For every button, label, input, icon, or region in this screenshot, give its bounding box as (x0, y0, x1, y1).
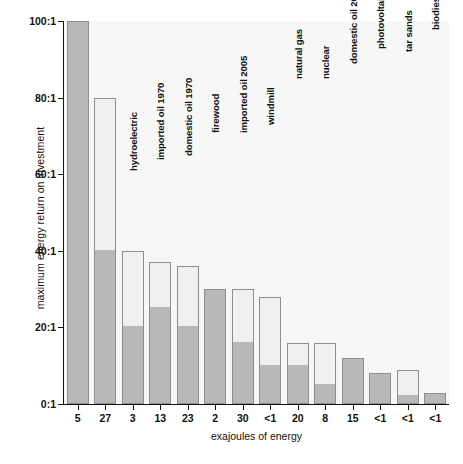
x-axis-tick-label: 5 (75, 412, 81, 424)
x-axis-tick-label: <1 (402, 412, 414, 424)
x-axis-tick-mark (243, 405, 244, 410)
bar[interactable] (122, 251, 144, 404)
bar-label: windmill (265, 88, 276, 126)
bar[interactable] (287, 343, 309, 404)
x-axis-tick-mark (215, 405, 216, 410)
bar-lower-segment (233, 342, 253, 403)
x-axis-tick-label: 13 (154, 412, 166, 424)
bar-label: photovoltaic (375, 0, 386, 49)
x-axis-tick-label: <1 (429, 412, 441, 424)
bar-slot: firewood (204, 21, 226, 404)
bar[interactable] (397, 370, 419, 404)
bar-lower-segment (95, 250, 115, 403)
bar-slot: windmill (259, 21, 281, 404)
x-axis-tick-label: 23 (182, 412, 194, 424)
bar-label: domestic oil 2000 (347, 0, 358, 64)
y-axis-tick-label: 60:1 (14, 168, 56, 180)
bar-slot: photovoltaic (369, 21, 391, 404)
y-axis-tick-label: 40:1 (14, 245, 56, 257)
y-axis-tick-label: 100:1 (14, 15, 56, 27)
x-axis-tick-label: 15 (347, 412, 359, 424)
x-axis-tick-label: 3 (130, 412, 136, 424)
bar[interactable] (232, 289, 254, 404)
bar-label: tar sands (402, 11, 413, 53)
x-axis-tick-mark (380, 405, 381, 410)
bar-lower-segment (178, 326, 198, 403)
plot-area: domestic oil 1930coalhydroelectricimport… (64, 21, 449, 404)
bar-lower-segment (150, 307, 170, 403)
x-axis-tick-mark (188, 405, 189, 410)
y-axis-tick-label: 0:1 (14, 398, 56, 410)
bar-label: nuclear (320, 46, 331, 79)
bar-slot: tar sands (397, 21, 419, 404)
x-axis-tick-label: 27 (99, 412, 111, 424)
bar-slot: domestic oil 1970 (177, 21, 199, 404)
bar-label: domestic oil 1970 (182, 78, 193, 156)
bar-lower-segment (288, 365, 308, 403)
x-axis-tick-label: 8 (322, 412, 328, 424)
bar-label: imported oil 1970 (155, 83, 166, 160)
bar[interactable] (314, 343, 336, 404)
bar-slot: domestic oil 2000 (342, 21, 364, 404)
bar-label: firewood (210, 94, 221, 133)
bar-slot: nuclear (314, 21, 336, 404)
x-axis-tick-mark (325, 405, 326, 410)
bar[interactable] (177, 266, 199, 404)
bar-slot: natural gas (287, 21, 309, 404)
bar[interactable] (94, 98, 116, 404)
x-axis-tick-mark (78, 405, 79, 410)
x-axis-title: exajoules of energy (64, 430, 449, 442)
bar-slot: hydroelectric (122, 21, 144, 404)
bar-slot: imported oil 1970 (149, 21, 171, 404)
x-axis-tick-label: <1 (374, 412, 386, 424)
x-axis-tick-label: 2 (212, 412, 218, 424)
bar-label: hydroelectric (127, 112, 138, 171)
bar-slot: domestic oil 1930 (67, 21, 89, 404)
x-axis-line (63, 404, 449, 405)
bar-slot: imported oil 2005 (232, 21, 254, 404)
bar[interactable] (342, 358, 364, 404)
x-axis-tick-mark (298, 405, 299, 410)
x-axis-tick-label: 30 (237, 412, 249, 424)
bar[interactable] (204, 289, 226, 404)
chart-container: maximum energy return on investment 0:12… (0, 0, 463, 464)
y-axis-tick-label: 80:1 (14, 92, 56, 104)
bar-slot: biodiesel and gasahol (424, 21, 446, 404)
x-axis-tick-label: 20 (292, 412, 304, 424)
bar-lower-segment (260, 365, 280, 403)
bar[interactable] (67, 21, 89, 404)
x-axis-tick-mark (160, 405, 161, 410)
y-axis-tick-labels: 0:120:140:160:180:1100:1 (12, 0, 56, 464)
bar-lower-segment (398, 395, 418, 403)
y-axis-tick-label: 20:1 (14, 321, 56, 333)
x-axis-tick-label: <1 (264, 412, 276, 424)
bar-label: natural gas (292, 29, 303, 79)
bar[interactable] (259, 297, 281, 404)
x-axis-tick-mark (408, 405, 409, 410)
bar-lower-segment (123, 326, 143, 403)
x-axis-tick-mark (435, 405, 436, 410)
x-axis-tick-mark (105, 405, 106, 410)
x-axis-tick-mark (270, 405, 271, 410)
bar[interactable] (424, 393, 446, 404)
bar[interactable] (369, 373, 391, 404)
x-axis-tick-mark (133, 405, 134, 410)
bar-slot: coal (94, 21, 116, 404)
bar-label: imported oil 2005 (237, 56, 248, 133)
bar[interactable] (149, 262, 171, 404)
x-axis-tick-mark (353, 405, 354, 410)
bar-label: biodiesel and gasahol (430, 0, 441, 30)
bar-lower-segment (315, 384, 335, 403)
